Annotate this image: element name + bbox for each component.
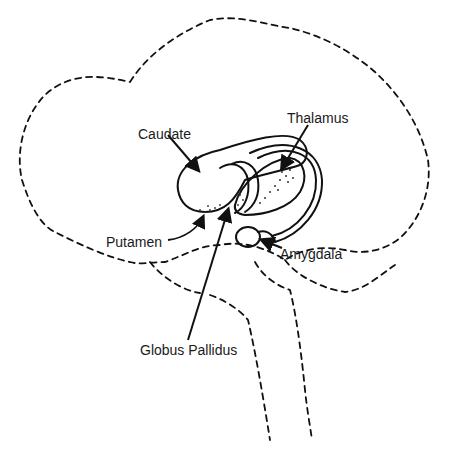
label-thalamus: Thalamus <box>287 110 348 126</box>
amygdala-shape <box>236 227 260 247</box>
label-caudate: Caudate <box>138 126 191 142</box>
label-putamen: Putamen <box>106 234 162 250</box>
stipple-shading <box>199 165 294 213</box>
brainstem-right <box>255 262 312 440</box>
brainstem-left <box>210 295 270 440</box>
label-amygdala: Amygdala <box>280 246 342 262</box>
putamen-pointer <box>168 217 203 240</box>
caudate-shape <box>178 136 307 212</box>
label-globus-pallidus: Globus Pallidus <box>140 342 237 358</box>
brain-diagram <box>0 0 454 461</box>
brain-outline <box>20 18 429 263</box>
